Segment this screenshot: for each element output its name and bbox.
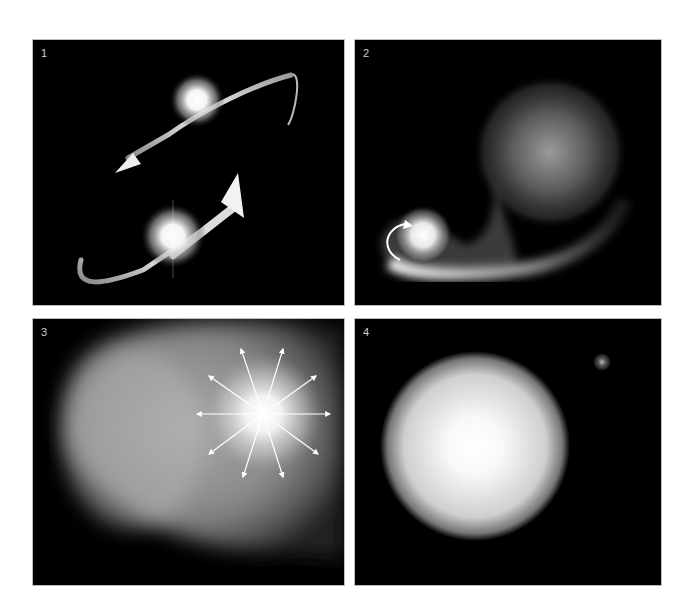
panel-number: 3 bbox=[41, 326, 47, 338]
panel-number: 1 bbox=[41, 47, 47, 59]
panel-3-explosion: 3 bbox=[33, 319, 344, 585]
panel-2-mass-transfer: 2 bbox=[355, 40, 661, 305]
star-small bbox=[169, 72, 225, 128]
compact-star bbox=[393, 205, 453, 265]
mass-transfer-illustration bbox=[355, 40, 661, 305]
panel-number: 4 bbox=[363, 326, 369, 338]
explosion-illustration bbox=[33, 319, 344, 585]
panel-number: 2 bbox=[363, 47, 369, 59]
panel-1-orbiting-binary: 1 bbox=[33, 40, 344, 305]
remnant-illustration bbox=[355, 319, 661, 585]
bright-star bbox=[380, 351, 570, 541]
panel-4-remnant: 4 bbox=[355, 319, 661, 585]
small-remnant-star bbox=[593, 353, 611, 371]
binary-star-illustration bbox=[33, 40, 344, 305]
